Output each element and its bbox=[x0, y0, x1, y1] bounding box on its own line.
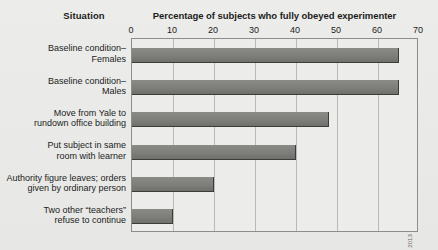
category-label-line: Two other “teachers” bbox=[6, 205, 126, 216]
bar bbox=[132, 177, 214, 192]
x-axis-tick-labels: 010203040506070 bbox=[131, 25, 418, 37]
category-label: Baseline condition–Males bbox=[6, 76, 126, 97]
category-label-line: Baseline condition– bbox=[6, 43, 126, 54]
copyright-credit: © Cengage Learning 2013 bbox=[406, 234, 413, 250]
category-label-line: Move from Yale to bbox=[6, 108, 126, 119]
figure-container: Situation Percentage of subjects who ful… bbox=[0, 0, 438, 250]
bar-row bbox=[132, 168, 417, 200]
plot-area bbox=[131, 38, 418, 232]
category-label-line: room with learner bbox=[6, 151, 126, 162]
credit-holder: © Cengage Learning 2013 bbox=[405, 128, 415, 238]
x-tick-label: 50 bbox=[331, 25, 341, 35]
category-label-line: Put subject in same bbox=[6, 140, 126, 151]
figure-inner: Situation Percentage of subjects who ful… bbox=[6, 4, 418, 244]
x-tick-label: 20 bbox=[208, 25, 218, 35]
bar bbox=[132, 112, 329, 127]
category-label: Put subject in sameroom with learner bbox=[6, 140, 126, 161]
bar bbox=[132, 48, 399, 63]
bar-row bbox=[132, 104, 417, 136]
category-label: Two other “teachers”refuse to continue bbox=[6, 205, 126, 226]
x-tick-label: 70 bbox=[413, 25, 423, 35]
chart-axis-title: Percentage of subjects who fully obeyed … bbox=[131, 10, 418, 21]
category-label-line: Males bbox=[6, 86, 126, 97]
category-label-list: Baseline condition–FemalesBaseline condi… bbox=[6, 38, 126, 232]
x-tick-label: 30 bbox=[249, 25, 259, 35]
category-label: Move from Yale torundown office building bbox=[6, 108, 126, 129]
category-label-line: Baseline condition– bbox=[6, 76, 126, 87]
x-tick-label: 10 bbox=[167, 25, 177, 35]
x-tick-label: 0 bbox=[128, 25, 133, 35]
plot-wrapper: 010203040506070 bbox=[131, 38, 418, 232]
x-tick-label: 60 bbox=[372, 25, 382, 35]
category-label-line: refuse to continue bbox=[6, 215, 126, 226]
category-label-line: Authority figure leaves; orders bbox=[6, 173, 126, 184]
category-label-line: Females bbox=[6, 54, 126, 65]
bar bbox=[132, 145, 296, 160]
bar-row bbox=[132, 39, 417, 71]
category-label: Baseline condition–Females bbox=[6, 43, 126, 64]
bar-row bbox=[132, 71, 417, 103]
bar bbox=[132, 209, 173, 224]
bar-row bbox=[132, 136, 417, 168]
category-label-line: given by ordinary person bbox=[6, 183, 126, 194]
x-tick-label: 40 bbox=[290, 25, 300, 35]
bar bbox=[132, 80, 399, 95]
category-label-line: rundown office building bbox=[6, 118, 126, 129]
situation-column-header: Situation bbox=[24, 10, 144, 21]
category-label: Authority figure leaves; ordersgiven by … bbox=[6, 173, 126, 194]
bar-row bbox=[132, 201, 417, 233]
